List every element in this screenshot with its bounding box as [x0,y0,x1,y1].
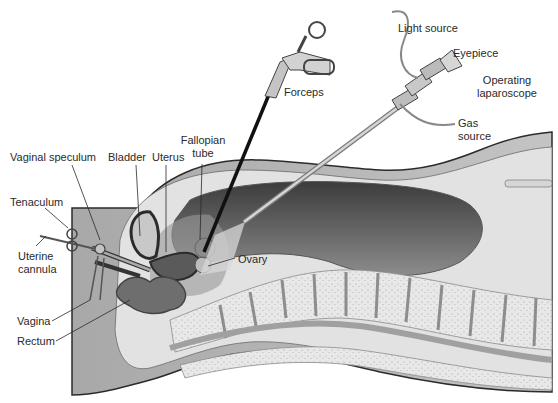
label-eyepiece: Eyepiece [453,47,498,60]
label-rectum: Rectum [17,335,55,348]
label-uterine-cannula-line2: cannula [18,263,57,276]
label-gas-source: Gas source [458,117,491,143]
label-bladder: Bladder [108,151,146,164]
label-gas-source-line2: source [458,130,491,143]
abdominal-muscle [505,180,552,187]
label-operating-laparoscope: Operating laparoscope [467,74,547,100]
label-operating-laparoscope-line2: laparoscope [467,87,547,100]
label-light-source: Light source [398,22,458,35]
label-vaginal-speculum: Vaginal speculum [10,151,96,164]
label-uterine-cannula-line1: Uterine [18,250,57,263]
label-gas-source-line1: Gas [458,117,491,130]
laparoscopy-diagram: Light source Eyepiece Operating laparosc… [0,0,558,403]
label-operating-laparoscope-line1: Operating [467,74,547,87]
label-forceps: Forceps [284,86,324,99]
label-vagina: Vagina [17,315,50,328]
label-uterus: Uterus [152,151,184,164]
label-uterine-cannula: Uterine cannula [18,250,57,276]
label-ovary: Ovary [238,253,267,266]
anatomy-illustration [0,0,558,403]
label-tenaculum: Tenaculum [10,196,63,209]
label-fallopian-tube-line1: Fallopian [175,134,231,147]
